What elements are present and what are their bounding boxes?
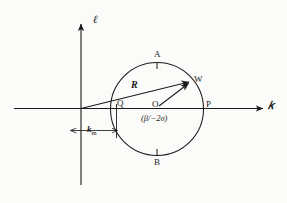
dimension-label-km-subscript: m <box>92 129 97 136</box>
vector-OW <box>159 84 189 107</box>
point-label-Q: Q <box>117 99 124 108</box>
point-label-P: P <box>206 100 211 109</box>
circle-center-value: (β/−2σ) <box>141 114 167 123</box>
vector-label-R: R <box>131 80 138 90</box>
point-label-B: B <box>154 158 160 167</box>
point-label-O: O <box>152 100 159 109</box>
figure-canvas: ℓ 𝑘 A B P Q W O R (β/−2σ) km <box>0 0 287 203</box>
diagram-svg <box>0 0 287 203</box>
dimension-label-km: km <box>87 125 97 136</box>
point-label-W: W <box>194 75 203 84</box>
point-label-A: A <box>154 50 161 59</box>
horizontal-axis-label: 𝑘 <box>268 100 274 111</box>
vertical-axis-label: ℓ <box>93 14 98 25</box>
